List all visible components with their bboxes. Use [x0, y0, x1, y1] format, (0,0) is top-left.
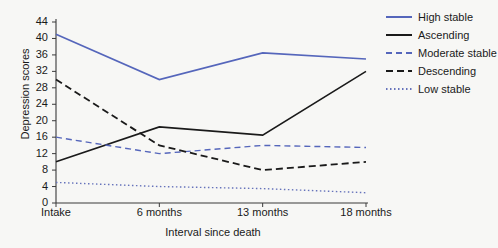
legend-label: Low stable — [418, 83, 471, 95]
y-tick-label: 40 — [26, 32, 48, 43]
legend-item[interactable]: Descending — [386, 62, 498, 80]
x-tick-label: 18 months — [340, 206, 391, 218]
y-tick-label: 4 — [26, 181, 48, 192]
legend-label: High stable — [418, 11, 473, 23]
legend-label: Ascending — [418, 29, 469, 41]
legend-swatch-solid-line-icon — [386, 12, 412, 22]
legend-label: Moderate stable — [418, 47, 497, 59]
legend-swatch-dashed-line-icon — [386, 48, 412, 58]
y-tick-label: 16 — [26, 131, 48, 142]
plot-area — [56, 22, 366, 203]
legend-swatch-dotted-line-icon — [386, 84, 412, 94]
legend-swatch-solid-line-icon — [386, 30, 412, 40]
series-line-high-stable — [56, 34, 366, 79]
x-tick-label: Intake — [41, 206, 71, 218]
series-line-ascending — [56, 71, 366, 162]
y-tick-label: 36 — [26, 49, 48, 60]
y-tick-label: 44 — [26, 16, 48, 27]
y-tick-label: 8 — [26, 164, 48, 175]
legend-item[interactable]: Low stable — [386, 80, 498, 98]
legend-item[interactable]: High stable — [386, 8, 498, 26]
depression-scores-line-chart: Depression scores 048121620242832364044 … — [0, 0, 498, 248]
y-tick-label: 28 — [26, 82, 48, 93]
x-tick-label: 13 months — [237, 206, 288, 218]
legend-item[interactable]: Ascending — [386, 26, 498, 44]
y-tick-label: 12 — [26, 148, 48, 159]
plot-svg — [56, 22, 366, 203]
x-tick-label: 6 months — [137, 206, 182, 218]
legend-label: Descending — [418, 65, 476, 77]
y-tick-label: 20 — [26, 115, 48, 126]
y-tick-label: 32 — [26, 65, 48, 76]
series-line-low-stable — [56, 182, 366, 192]
chart-legend: High stableAscendingModerate stableDesce… — [386, 8, 498, 98]
x-axis-title: Interval since death — [63, 226, 363, 238]
series-line-descending — [56, 80, 366, 171]
legend-item[interactable]: Moderate stable — [386, 44, 498, 62]
y-tick-label: 24 — [26, 98, 48, 109]
legend-swatch-dashed-line-icon — [386, 66, 412, 76]
